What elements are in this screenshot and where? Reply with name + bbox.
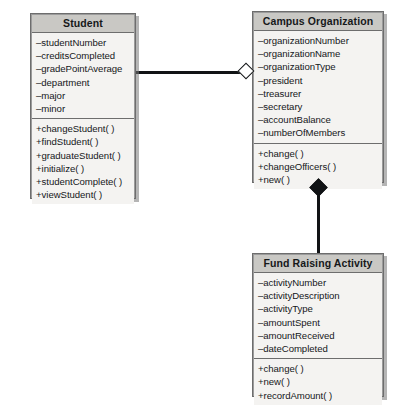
- class-box-student[interactable]: Student –studentNumber –creditsCompleted…: [30, 13, 136, 199]
- operation-row: +initialize( ): [36, 162, 134, 175]
- attribute-row: –amountSpent: [258, 316, 382, 329]
- operation-row: +change( ): [258, 362, 382, 375]
- class-box-campus-organization[interactable]: Campus Organization –organizationNumber …: [252, 11, 384, 183]
- operation-row: +new( ): [258, 375, 382, 388]
- class-box-campus-organization-inner: Campus Organization –organizationNumber …: [253, 12, 383, 182]
- attribute-row: –treasurer: [258, 87, 382, 100]
- attribute-row: –organizationName: [258, 47, 382, 60]
- attribute-row: –department: [36, 76, 134, 89]
- attribute-row: –accountBalance: [258, 113, 382, 126]
- attribute-row: –activityDescription: [258, 289, 382, 302]
- class-attributes-student: –studentNumber –creditsCompleted –gradeP…: [32, 33, 134, 118]
- operation-row: +studentComplete( ): [36, 175, 134, 188]
- attribute-row: –gradePointAverage: [36, 62, 134, 75]
- association-line-student-campus-organization: [136, 71, 252, 74]
- operation-row: +change( ): [258, 147, 382, 160]
- attribute-row: –minor: [36, 102, 134, 115]
- class-attributes-fund-raising-activity: –activityNumber –activityDescription –ac…: [254, 273, 382, 358]
- attribute-row: –major: [36, 89, 134, 102]
- attribute-row: –secretary: [258, 100, 382, 113]
- operation-row: +changeStudent( ): [36, 122, 134, 135]
- class-title-student: Student: [32, 15, 134, 33]
- class-title-fund-raising-activity: Fund Raising Activity: [254, 255, 382, 273]
- attribute-row: –dateCompleted: [258, 342, 382, 355]
- class-attributes-campus-organization: –organizationNumber –organizationName –o…: [254, 31, 382, 143]
- class-operations-student: +changeStudent( ) +findStudent( ) +gradu…: [32, 118, 134, 204]
- operation-row: +recordAmount( ): [258, 389, 382, 402]
- figure-caption: [0, 404, 395, 412]
- attribute-row: –studentNumber: [36, 36, 134, 49]
- class-title-campus-organization: Campus Organization: [254, 13, 382, 31]
- uml-class-diagram-canvas: Student –studentNumber –creditsCompleted…: [0, 0, 395, 412]
- attribute-row: –president: [258, 74, 382, 87]
- class-operations-fund-raising-activity: +change( ) +new( ) +recordAmount( ): [254, 358, 382, 405]
- class-box-fund-raising-activity-inner: Fund Raising Activity –activityNumber –a…: [253, 254, 383, 396]
- attribute-row: –numberOfMembers: [258, 126, 382, 139]
- operation-row: +graduateStudent( ): [36, 149, 134, 162]
- attribute-row: –creditsCompleted: [36, 49, 134, 62]
- attribute-row: –activityType: [258, 302, 382, 315]
- class-box-fund-raising-activity[interactable]: Fund Raising Activity –activityNumber –a…: [252, 253, 384, 397]
- attribute-row: –amountReceived: [258, 329, 382, 342]
- operation-row: +findStudent( ): [36, 135, 134, 148]
- attribute-row: –organizationNumber: [258, 34, 382, 47]
- operation-row: +changeOfficers( ): [258, 160, 382, 173]
- operation-row: +viewStudent( ): [36, 188, 134, 201]
- attribute-row: –organizationType: [258, 60, 382, 73]
- attribute-row: –activityNumber: [258, 276, 382, 289]
- class-box-student-inner: Student –studentNumber –creditsCompleted…: [31, 14, 135, 198]
